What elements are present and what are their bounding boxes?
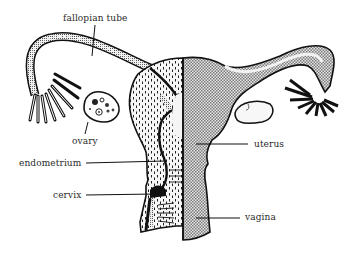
anatomy-diagram: fallopian tube ovary endometrium cervix … [0,0,350,264]
label-uterus: uterus [254,139,284,149]
uterus-illustration [0,0,350,264]
leader-ovary [85,122,88,134]
left-ovary [84,92,119,122]
label-vagina: vagina [245,212,276,222]
uterus-section-left [129,58,183,232]
label-fallopian-tube: fallopian tube [63,13,127,23]
label-endometrium: endometrium [19,158,81,168]
label-ovary: ovary [72,136,98,146]
right-ovary [235,101,273,123]
leader-cervix [86,194,155,195]
label-cervix: cervix [53,190,81,200]
